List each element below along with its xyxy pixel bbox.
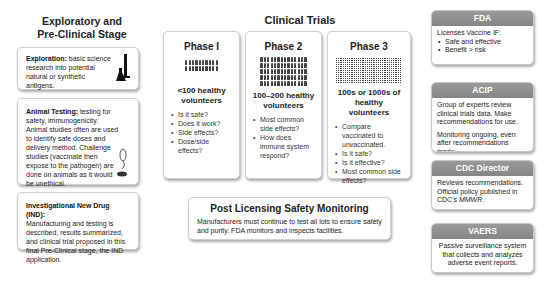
- mouse-icon: [116, 147, 130, 177]
- person-icon: [271, 69, 273, 74]
- person-icon: [209, 60, 211, 65]
- person-icon: [192, 60, 194, 65]
- person-icon: [212, 66, 214, 71]
- person-icon: [205, 60, 207, 65]
- preclinical-title-line1: Exploratory and: [12, 15, 152, 28]
- people-icons: [170, 60, 233, 72]
- person-icon: [287, 75, 289, 80]
- lab-flask-icon: [116, 54, 132, 82]
- volunteers-label: 100–200 healthy volunteers: [252, 91, 315, 111]
- person-icon: [185, 66, 187, 71]
- person-icon: [209, 66, 211, 71]
- person-icon: [260, 57, 262, 62]
- person-icon: [274, 69, 276, 74]
- acip-monitoring-text: Monitoring ongoing, even after recommend…: [437, 131, 528, 153]
- person-icon: [298, 75, 300, 80]
- phase-title: Phase I: [170, 41, 233, 52]
- person-icon: [294, 57, 296, 62]
- person-icon: [301, 75, 303, 80]
- post-licensing-title: Post Licensing Safety Monitoring: [197, 203, 382, 214]
- acip-header: ACIP: [432, 83, 533, 98]
- phase-questions: Compare vaccinated to unvaccinated. Is i…: [334, 122, 404, 185]
- person-icon: [294, 63, 296, 68]
- phase-3-card: Phase 3 100s or 1000s of healthy volunte…: [327, 31, 411, 179]
- vaers-card: VAERS Passive surveillance system that c…: [431, 223, 534, 273]
- person-icon: [298, 63, 300, 68]
- acip-text: Group of experts review clinical trials …: [437, 101, 528, 127]
- people-crowd-icon: [336, 57, 402, 84]
- person-icon: [281, 63, 283, 68]
- person-icon: [294, 75, 296, 80]
- person-icon: [267, 63, 269, 68]
- person-icon: [267, 69, 269, 74]
- animal-testing-text: testing for safety, immunogenicity. Anim…: [26, 108, 118, 187]
- clinical-trials-title: Clinical Trials: [220, 14, 380, 26]
- phase-title: Phase 3: [334, 41, 404, 52]
- person-icon: [271, 75, 273, 80]
- people-icons: [252, 57, 315, 87]
- person-icon: [271, 63, 273, 68]
- person-icon: [260, 81, 262, 86]
- vaers-text: Passive surveillance system that collect…: [437, 242, 528, 268]
- person-icon: [189, 66, 191, 71]
- person-icon: [212, 60, 214, 65]
- person-icon: [271, 81, 273, 86]
- cdc-text-end: .: [482, 196, 484, 203]
- person-icon: [301, 69, 303, 74]
- person-icon: [284, 69, 286, 74]
- animal-testing-card: Animal Testing: testing for safety, immu…: [17, 98, 139, 185]
- person-icon: [304, 63, 306, 68]
- person-icon: [202, 60, 204, 65]
- person-icon: [298, 81, 300, 86]
- fda-criterion: Benefit > risk: [437, 46, 528, 55]
- mmwr-text: MMWR: [459, 196, 482, 203]
- person-icon: [260, 63, 262, 68]
- person-icon: [284, 57, 286, 62]
- person-icon: [274, 81, 276, 86]
- fda-card: FDA Licenses Vaccine IF: Safe and effect…: [431, 10, 534, 65]
- person-icon: [291, 69, 293, 74]
- person-icon: [291, 75, 293, 80]
- question-item: Is it safe?: [170, 110, 233, 119]
- person-icon: [195, 60, 197, 65]
- ind-label: Investigational New Drug (IND):: [26, 202, 110, 218]
- animal-testing-label: Animal Testing:: [26, 108, 78, 115]
- person-icon: [267, 75, 269, 80]
- person-icon: [301, 57, 303, 62]
- cdc-director-header: CDC Director: [432, 161, 533, 176]
- person-icon: [267, 57, 269, 62]
- person-icon: [304, 75, 306, 80]
- person-icon: [298, 57, 300, 62]
- person-icon: [287, 69, 289, 74]
- person-icon: [274, 75, 276, 80]
- person-icon: [301, 81, 303, 86]
- person-icon: [199, 66, 201, 71]
- volunteers-label: 100s or 1000s of healthy volunteers: [334, 88, 404, 118]
- question-item: Compare vaccinated to unvaccinated.: [334, 122, 404, 149]
- fda-criterion: Safe and effective: [437, 38, 528, 47]
- person-icon: [264, 57, 266, 62]
- person-icon: [294, 81, 296, 86]
- volunteers-label: <100 healthy volunteers: [170, 86, 233, 106]
- person-icon: [281, 81, 283, 86]
- ind-card: Investigational New Drug (IND): Manufact…: [17, 192, 139, 250]
- person-icon: [298, 69, 300, 74]
- question-item: Does it work?: [170, 119, 233, 128]
- person-icon: [199, 60, 201, 65]
- person-icon: [304, 81, 306, 86]
- exploration-label: Exploration:: [26, 55, 67, 62]
- person-icon: [264, 63, 266, 68]
- phase-questions: Most common side effects? How does immun…: [252, 115, 315, 160]
- question-item: Is it safe?: [334, 149, 404, 158]
- person-icon: [291, 63, 293, 68]
- phase-questions: Is it safe? Does it work? Side effects? …: [170, 110, 233, 155]
- acip-card: ACIP Group of experts review clinical tr…: [431, 82, 534, 152]
- person-icon: [271, 57, 273, 62]
- person-icon: [274, 57, 276, 62]
- person-icon: [260, 69, 262, 74]
- phase-2-card: Phase 2 100–200 healthy volunteers Most …: [245, 31, 322, 179]
- person-icon: [284, 63, 286, 68]
- person-icon: [287, 63, 289, 68]
- question-item: Most common side effects?: [252, 115, 315, 133]
- person-icon: [264, 81, 266, 86]
